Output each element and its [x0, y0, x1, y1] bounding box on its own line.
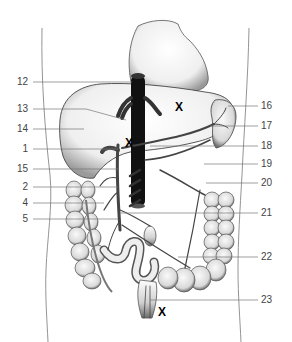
sigmoid-colon: [158, 259, 226, 292]
label-21: 21: [261, 208, 272, 218]
ascending-colon: [65, 181, 105, 289]
label-20: 20: [261, 178, 272, 188]
vena-cava: [131, 76, 145, 206]
label-17: 17: [261, 121, 272, 131]
label-22: 22: [261, 252, 272, 262]
descending-colon: [203, 192, 234, 264]
label-2: 2: [6, 182, 28, 192]
label-19: 19: [261, 159, 272, 169]
rectum: [138, 280, 157, 318]
anatomy-illustration: [0, 0, 292, 342]
label-4: 4: [6, 198, 28, 208]
label-13: 13: [6, 104, 28, 114]
label-15: 15: [6, 164, 28, 174]
label-16: 16: [261, 101, 272, 111]
label-18: 18: [261, 141, 272, 151]
x-mark-rectum: X: [158, 306, 166, 318]
label-1: 1: [6, 144, 28, 154]
label-23: 23: [261, 295, 272, 305]
x-mark-portal: X: [125, 137, 133, 149]
x-mark-liver: X: [175, 101, 183, 113]
label-14: 14: [6, 124, 28, 134]
label-12: 12: [6, 77, 28, 87]
label-5: 5: [6, 214, 28, 224]
